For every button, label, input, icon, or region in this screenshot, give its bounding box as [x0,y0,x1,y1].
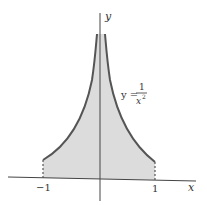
shaded-region [43,34,155,180]
tick-label-right: 1 [152,183,158,194]
y-axis-label: y [104,10,112,23]
x-axis-label: x [188,181,195,194]
function-label-exponent: 2 [142,93,146,100]
tick-label-left: −1 [36,182,51,193]
diagram-canvas: y x −1 1 y = 1 x 2 [0,0,207,205]
function-label-numerator: 1 [139,82,145,92]
function-label-denominator: x [136,96,141,106]
